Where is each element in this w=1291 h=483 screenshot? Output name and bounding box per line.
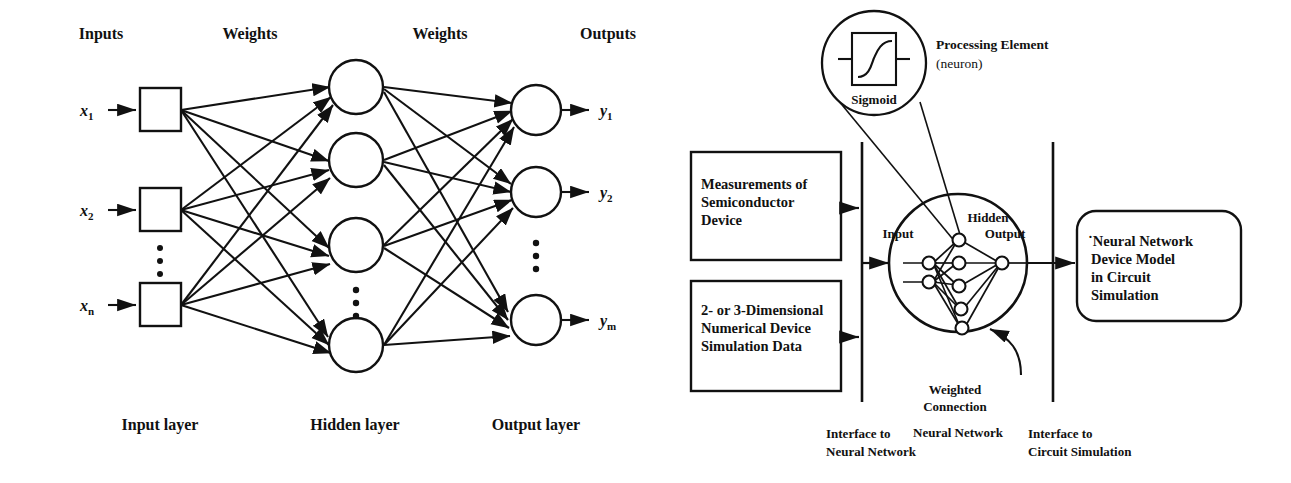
result-box-line1: ˙Neural Network xyxy=(1088,233,1194,249)
interface-caption-2-line2: Circuit Simulation xyxy=(1028,444,1132,459)
hidden-node-3 xyxy=(329,218,383,272)
weighted-connection-arrow xyxy=(990,329,1021,375)
result-box-line4: Simulation xyxy=(1091,287,1159,303)
caption-input-layer: Input layer xyxy=(122,416,199,434)
caption-hidden-layer: Hidden layer xyxy=(310,416,399,434)
output-label-2: y2 xyxy=(598,184,613,204)
caption-output-layer: Output layer xyxy=(492,416,580,434)
left-diagram-group: Inputs Weights Weights Outputs xyxy=(79,25,636,434)
output-labels: y1 y2 ym xyxy=(562,102,616,332)
inner-output-node xyxy=(996,257,1009,270)
label-weighted-connection-line1: Weighted xyxy=(929,382,982,397)
label-inner-hidden: Hidden xyxy=(967,210,1009,225)
figure-canvas: Inputs Weights Weights Outputs xyxy=(0,0,1291,483)
magnification-leader-lines xyxy=(838,100,961,243)
hidden-node-4 xyxy=(329,318,383,372)
output-node-3 xyxy=(511,295,561,345)
label-weighted-connection-line2: Connection xyxy=(923,399,987,414)
source-box-measurements-line1: Measurements of xyxy=(701,176,808,192)
hidden-ellipsis xyxy=(353,287,359,319)
source-box-simulation-data xyxy=(691,281,841,391)
diagram-svg: Inputs Weights Weights Outputs xyxy=(0,0,1291,483)
header-inputs: Inputs xyxy=(79,25,123,43)
source-box-measurements-line3: Device xyxy=(701,212,743,228)
inner-hidden-node-3 xyxy=(953,280,966,293)
input-label-2: x2 xyxy=(79,202,94,222)
input-box-1 xyxy=(140,88,181,131)
hidden-node-1 xyxy=(329,60,383,114)
header-weights-1: Weights xyxy=(222,25,277,43)
weights-layer-2 xyxy=(384,87,514,345)
result-box-line3: in Circuit xyxy=(1091,269,1151,285)
inner-input-node-2 xyxy=(923,276,936,289)
inner-input-node-1 xyxy=(923,257,936,270)
input-nodes xyxy=(108,88,181,326)
hidden-node-2 xyxy=(329,133,383,187)
interface-caption-2-line1: Interface to xyxy=(1028,426,1093,441)
weights-layer-1 xyxy=(181,87,333,353)
label-inner-input: Input xyxy=(882,226,914,241)
source-box-simulation-line3: Simulation Data xyxy=(701,338,803,354)
interface-caption-1-line2: Neural Network xyxy=(826,444,917,459)
input-label-1: x1 xyxy=(79,102,94,122)
inner-hidden-node-1 xyxy=(953,234,966,247)
label-processing-element: Processing Element xyxy=(936,37,1049,52)
source-box-simulation-line2: Numerical Device xyxy=(701,320,811,336)
source-box-measurements-line2: Semiconductor xyxy=(701,194,795,210)
label-inner-output: Output xyxy=(985,226,1026,241)
hidden-nodes xyxy=(329,60,383,372)
right-diagram-group: Measurements of Semiconductor Device 2- … xyxy=(691,11,1241,459)
label-sigmoid: Sigmoid xyxy=(851,92,897,107)
input-label-3: xn xyxy=(79,297,94,317)
input-labels: x1 x2 xn xyxy=(79,102,94,317)
output-node-1 xyxy=(511,85,561,135)
input-box-2 xyxy=(140,188,181,231)
interface-caption-1-line1: Interface to xyxy=(826,426,891,441)
caption-neural-network: Neural Network xyxy=(913,425,1004,440)
source-box-simulation-line1: 2- or 3-Dimensional xyxy=(701,302,823,318)
inner-hidden-node-2 xyxy=(953,257,966,270)
output-node-2 xyxy=(511,167,561,217)
inner-hidden-node-4 xyxy=(955,303,968,316)
output-ellipsis xyxy=(533,240,539,272)
output-nodes xyxy=(511,85,561,345)
output-label-3: ym xyxy=(598,312,616,332)
output-label-1: y1 xyxy=(598,102,613,122)
input-ellipsis xyxy=(157,245,163,277)
inner-hidden-node-5 xyxy=(956,322,969,335)
header-outputs: Outputs xyxy=(580,25,636,43)
label-processing-element-sub: (neuron) xyxy=(936,56,982,71)
input-box-3 xyxy=(140,283,181,326)
result-box-line2: Device Model xyxy=(1091,251,1175,267)
header-weights-2: Weights xyxy=(412,25,467,43)
